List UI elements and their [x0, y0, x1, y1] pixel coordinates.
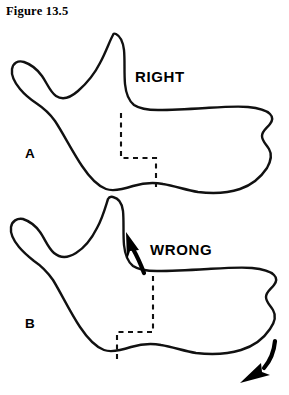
panel-label-a: A — [25, 146, 35, 161]
mandible-outline-a — [12, 34, 272, 193]
figure-container: Figure 13.5 RIGHT WRONG A — [0, 0, 289, 395]
dashed-step-line-a — [121, 113, 156, 187]
panel-b-group — [11, 197, 276, 383]
annotation-wrong: WRONG — [150, 241, 212, 258]
annotation-right: RIGHT — [135, 68, 185, 85]
mandible-outline-b — [11, 197, 276, 354]
panel-label-b: B — [25, 316, 35, 331]
figure-illustration — [0, 0, 289, 395]
panel-a-group — [12, 34, 272, 193]
